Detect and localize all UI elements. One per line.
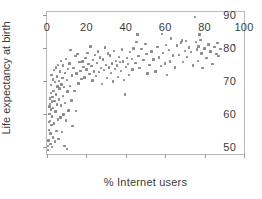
data-point (52, 90, 54, 92)
data-point (67, 109, 69, 111)
data-point (216, 42, 218, 44)
data-point (81, 60, 83, 62)
data-point (56, 75, 58, 77)
data-point (126, 57, 128, 59)
data-point (51, 115, 53, 117)
data-point (64, 72, 66, 74)
data-point (54, 140, 56, 142)
data-point (100, 67, 102, 69)
data-point (115, 60, 117, 62)
data-point (168, 49, 170, 51)
data-point (92, 59, 94, 61)
y-axis-title-text: Life expectancy at birth (0, 21, 12, 134)
data-point (62, 95, 64, 97)
data-point (71, 74, 73, 76)
data-point (55, 66, 57, 68)
data-point (101, 83, 103, 85)
data-point (104, 46, 106, 48)
data-point (53, 100, 55, 102)
x-axis-tick (205, 154, 206, 158)
data-point (184, 50, 186, 52)
data-point (174, 66, 176, 68)
data-point (205, 57, 207, 59)
y-axis-title: Life expectancy at birth (0, 0, 14, 155)
data-point (51, 96, 53, 98)
data-point (63, 86, 65, 88)
data-point (98, 71, 100, 73)
data-point (145, 53, 147, 55)
data-point (53, 69, 55, 71)
data-point (172, 54, 174, 56)
data-point (190, 51, 192, 53)
data-point (89, 45, 91, 47)
data-point (162, 52, 164, 54)
data-point (72, 67, 74, 69)
data-point (93, 70, 95, 72)
x-axis-tick (165, 154, 166, 158)
x-axis-tick-label: 40 (119, 21, 132, 33)
data-point (203, 47, 205, 49)
data-point (134, 62, 136, 64)
x-axis-tick-label: 100 (235, 21, 254, 33)
data-point (75, 110, 77, 112)
y-axis-tick-label: 50 (223, 141, 236, 153)
y-axis-tick-label: 70 (223, 75, 236, 87)
data-point (185, 40, 187, 42)
data-point (84, 57, 86, 59)
data-point (67, 68, 69, 70)
data-point (96, 62, 98, 64)
data-point (57, 138, 59, 140)
data-point (50, 84, 52, 86)
data-point (66, 90, 68, 92)
data-point (50, 92, 52, 94)
data-point (60, 60, 62, 62)
data-point (131, 68, 133, 70)
data-point (58, 87, 60, 89)
data-point (65, 58, 67, 60)
data-point (58, 80, 60, 82)
data-point (49, 120, 51, 122)
data-point (165, 44, 167, 46)
data-point (91, 79, 93, 81)
data-point (188, 46, 190, 48)
y-axis-tick (43, 114, 47, 115)
data-point (66, 148, 68, 150)
data-point (109, 54, 111, 56)
scatter-plot-figure: Life expectancy at birth 5060708090 0204… (0, 0, 262, 199)
data-point (53, 122, 55, 124)
data-point (52, 136, 54, 138)
data-point (200, 52, 202, 54)
data-point (194, 16, 196, 18)
data-point (59, 70, 61, 72)
x-axis-tick (47, 154, 48, 158)
data-point (137, 55, 139, 57)
data-point (217, 55, 219, 57)
data-point (182, 61, 184, 63)
data-point (75, 72, 77, 74)
data-point (59, 116, 61, 118)
data-point (102, 58, 104, 60)
x-axis-tick-label: 0 (44, 21, 50, 33)
data-point (73, 90, 75, 92)
data-point (49, 143, 51, 145)
x-axis-tick-label: 20 (80, 21, 93, 33)
data-point (79, 70, 81, 72)
data-point (105, 64, 107, 66)
data-point (121, 48, 123, 50)
data-point (48, 129, 50, 131)
data-point (47, 139, 49, 141)
data-point (123, 79, 125, 81)
data-point (152, 58, 154, 60)
data-point (138, 67, 140, 69)
data-point (131, 58, 133, 60)
data-point (63, 145, 65, 147)
data-point (199, 39, 201, 41)
data-point (112, 80, 114, 82)
data-point (97, 50, 99, 52)
data-point (209, 50, 211, 52)
data-point (164, 62, 166, 64)
data-point (108, 66, 110, 68)
y-axis-tick-label: 60 (223, 108, 236, 120)
data-point (94, 54, 96, 56)
x-axis-tick (244, 154, 245, 158)
